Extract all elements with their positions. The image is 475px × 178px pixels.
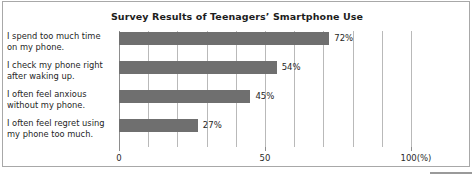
category-label-line: after waking up.: [7, 71, 115, 82]
category-label-line: I often feel anxious: [7, 89, 115, 100]
gridline: [353, 31, 354, 147]
gridline: [411, 31, 412, 147]
x-axis-tick: [411, 147, 412, 151]
bar-value-label: 54%: [282, 61, 301, 74]
bar: [119, 90, 250, 103]
x-axis-tick: [265, 147, 266, 151]
category-axis-labels: I spend too much time on my phone. I che…: [15, 31, 119, 147]
edge-artifact: [430, 172, 472, 174]
category-label-line: I check my phone right: [7, 60, 115, 71]
category-label: I check my phone right after waking up.: [7, 60, 119, 81]
x-axis-tick-label: 100(%): [400, 153, 431, 163]
chart-screenshot: Survey Results of Teenagers’ Smartphone …: [0, 0, 475, 178]
gridline: [323, 31, 324, 147]
category-label: I spend too much time on my phone.: [7, 31, 119, 52]
chart-title: Survey Results of Teenagers’ Smartphone …: [3, 11, 471, 22]
x-axis-tick-label: 50: [260, 153, 271, 163]
category-label-line: my phone too much.: [7, 129, 115, 140]
x-axis-tick: [119, 147, 120, 151]
bar-value-label: 72%: [334, 32, 353, 45]
gridline: [382, 31, 383, 147]
gridline: [294, 31, 295, 147]
gridline: [236, 31, 237, 147]
bar-value-label: 27%: [203, 119, 222, 132]
chart-frame: Survey Results of Teenagers’ Smartphone …: [2, 1, 470, 167]
gridline: [265, 31, 266, 147]
category-label-line: without my phone.: [7, 100, 115, 111]
bar: [119, 61, 277, 74]
bar-value-label: 45%: [255, 90, 274, 103]
plot-area: 050100(%)72%54%45%27%: [119, 31, 411, 147]
category-label-line: I spend too much time: [7, 31, 115, 42]
category-label-line: I often feel regret using: [7, 118, 115, 129]
category-label: I often feel regret using my phone too m…: [7, 118, 119, 139]
category-label-line: on my phone.: [7, 42, 115, 53]
bar: [119, 32, 329, 45]
category-label: I often feel anxious without my phone.: [7, 89, 119, 110]
x-axis-tick-label: 0: [116, 153, 121, 163]
bar: [119, 119, 198, 132]
